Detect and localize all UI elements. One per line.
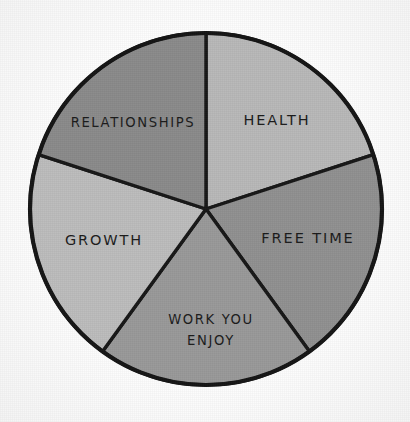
pie-label-growth: GROWTH <box>65 232 143 248</box>
pie-label-health: HEALTH <box>243 112 310 128</box>
pie-label-relationships: RELATIONSHIPS <box>71 115 196 130</box>
pie-label-work-you-enjoy-line1: WORK YOU <box>168 312 254 327</box>
pie-chart-svg: HEALTH FREE TIME WORK YOU ENJOY GROWTH R… <box>0 0 410 422</box>
pie-label-work-you-enjoy-line2: ENJOY <box>187 333 235 348</box>
pie-chart-figure: HEALTH FREE TIME WORK YOU ENJOY GROWTH R… <box>0 0 410 422</box>
pie-label-free-time: FREE TIME <box>261 230 354 246</box>
